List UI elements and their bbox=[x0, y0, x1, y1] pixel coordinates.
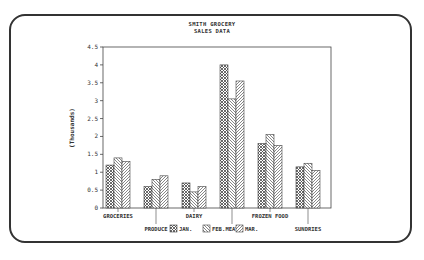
category-label: GROCERIES bbox=[103, 213, 133, 219]
y-tick-label: 0 bbox=[94, 204, 98, 211]
category-label: PRODUCE bbox=[144, 226, 167, 232]
y-tick-label: 3.5 bbox=[87, 79, 98, 86]
bar-feb bbox=[190, 192, 198, 208]
bar-feb bbox=[152, 179, 160, 208]
bar-feb bbox=[114, 158, 122, 208]
bar-jan bbox=[144, 187, 152, 208]
bar-mar bbox=[312, 170, 320, 208]
y-tick-label: 4.5 bbox=[87, 43, 98, 50]
bar-mar bbox=[160, 176, 168, 208]
bar-chart: 00.511.522.533.544.5GROCERIESPRODUCEDAIR… bbox=[0, 0, 424, 260]
y-tick-label: 1 bbox=[94, 168, 98, 175]
category-label: DAIRY bbox=[186, 213, 203, 219]
y-tick-label: 2.5 bbox=[87, 115, 98, 122]
legend-swatch bbox=[203, 225, 210, 232]
legend-swatch bbox=[236, 225, 243, 232]
y-tick-label: 1.5 bbox=[87, 150, 98, 157]
legend-label: JAN. bbox=[179, 226, 192, 232]
bar-mar bbox=[198, 187, 206, 208]
y-tick-label: 4 bbox=[94, 61, 98, 68]
bar-jan bbox=[106, 165, 114, 208]
y-axis-label: (Thousands) bbox=[68, 108, 75, 148]
bar-mar bbox=[236, 81, 244, 208]
legend-swatch bbox=[170, 225, 177, 232]
plot-area: 00.511.522.533.544.5GROCERIESPRODUCEDAIR… bbox=[87, 43, 331, 232]
bar-feb bbox=[304, 163, 312, 208]
bar-mar bbox=[122, 161, 130, 208]
bar-jan bbox=[258, 144, 266, 208]
category-label: SUNDRIES bbox=[295, 226, 322, 232]
bar-jan bbox=[182, 183, 190, 208]
bar-jan bbox=[220, 65, 228, 208]
bar-jan bbox=[296, 167, 304, 208]
y-tick-label: 0.5 bbox=[87, 186, 98, 193]
legend-label: MAR. bbox=[245, 226, 258, 232]
category-label: FROZEN FOOD bbox=[252, 213, 289, 219]
bar-feb bbox=[266, 135, 274, 208]
y-tick-label: 3 bbox=[94, 97, 98, 104]
bar-mar bbox=[274, 145, 282, 208]
y-tick-label: 2 bbox=[94, 132, 98, 139]
bar-feb bbox=[228, 99, 236, 208]
legend-label: FEB. bbox=[212, 226, 225, 232]
